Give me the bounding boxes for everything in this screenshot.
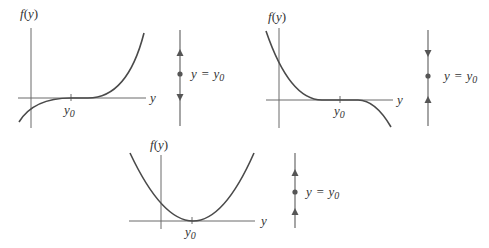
equilibrium-label: y=y0	[442, 68, 477, 85]
arrow-up-icon	[177, 49, 184, 56]
y-axis-label: y	[395, 92, 403, 107]
y-axis-label: y	[259, 213, 267, 228]
fy-label: f(y)	[268, 9, 286, 24]
equilibrium-label: y=y0	[304, 184, 339, 201]
arrow-down-icon	[177, 94, 184, 101]
arrow-up-icon	[292, 208, 299, 215]
fy-label: f(y)	[150, 137, 168, 152]
panel-1: f(y) y y0 y=y0	[18, 6, 224, 128]
arrow-down-icon	[425, 50, 432, 57]
y0-label: y0	[332, 103, 345, 120]
fy-label: f(y)	[20, 6, 38, 21]
diagram-canvas: f(y) y y0 y=y0 f(y) y y0 y=y0 f(y) y y0	[0, 0, 489, 248]
equilibrium-dot	[425, 73, 430, 78]
panel-2: f(y) y y0 y=y0	[266, 9, 477, 128]
y0-label: y0	[62, 102, 75, 119]
equilibrium-dot	[177, 71, 182, 76]
panel-3: f(y) y y0 y=y0	[129, 137, 339, 241]
cubic-curve	[266, 31, 391, 127]
y-axis-label: y	[148, 90, 156, 105]
equilibrium-label: y=y0	[189, 66, 224, 83]
cubic-curve	[19, 33, 144, 122]
arrow-up-icon	[292, 169, 299, 176]
y0-label: y0	[183, 224, 196, 241]
parabola-curve	[130, 153, 254, 221]
equilibrium-dot	[292, 189, 297, 194]
arrow-up-icon	[425, 96, 432, 103]
